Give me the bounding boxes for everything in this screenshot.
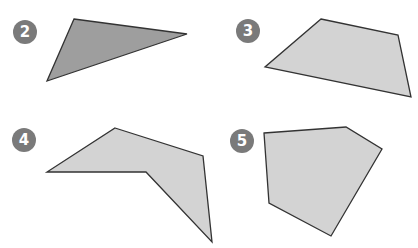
- polygon-figures-diagram: 2 3 4 5: [0, 0, 418, 248]
- figure-4-concave-pentagon: [47, 128, 212, 242]
- figure-3-number-badge: 3: [236, 19, 260, 43]
- figure-5-pentagon: [264, 127, 382, 236]
- figure-2-triangle: [47, 19, 187, 81]
- figure-3-quadrilateral: [265, 19, 411, 97]
- figure-2-number-badge: 2: [13, 20, 37, 44]
- shapes-layer: [0, 0, 418, 248]
- figure-5-number-badge: 5: [230, 129, 254, 153]
- figure-4-number-badge: 4: [12, 128, 36, 152]
